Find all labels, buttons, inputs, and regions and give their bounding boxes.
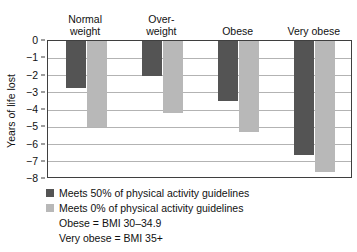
y-axis-tick-mark xyxy=(41,126,45,127)
bar-chart: Normal weightOver- weightObeseVery obese… xyxy=(0,0,357,252)
bar xyxy=(142,41,162,76)
bar xyxy=(163,41,183,113)
gridline xyxy=(48,161,351,162)
y-axis-tick-mark xyxy=(41,91,45,92)
bar xyxy=(87,41,107,127)
chart-legend: Meets 50% of physical activity guideline… xyxy=(46,186,346,246)
bar xyxy=(218,41,238,101)
legend-label: Meets 0% of physical activity guidelines xyxy=(59,202,243,214)
y-axis-tick-mark xyxy=(41,143,45,144)
legend-label: Meets 50% of physical activity guideline… xyxy=(59,187,249,199)
y-axis-tick-label: −7 xyxy=(26,155,38,167)
y-axis-tick-label: −2 xyxy=(26,69,38,81)
y-axis-tick-label: −8 xyxy=(26,172,38,184)
category-label: Very obese xyxy=(264,26,357,38)
chart-note: Very obese = BMI 35+ xyxy=(46,231,346,245)
legend-swatch xyxy=(46,189,54,197)
bar xyxy=(294,41,314,155)
y-axis-tick-mark xyxy=(41,74,45,75)
y-axis-tick-label: −1 xyxy=(26,51,38,63)
y-axis-ticks: Years of life lost 0−1−2−3−4−5−6−7−8 xyxy=(0,40,45,178)
y-axis-tick-mark xyxy=(41,109,45,110)
y-axis-tick-label: −5 xyxy=(26,120,38,132)
y-axis-tick-mark xyxy=(41,57,45,58)
y-axis-tick-mark xyxy=(41,40,45,41)
bar xyxy=(239,41,259,132)
bar xyxy=(315,41,335,172)
legend-item: Meets 50% of physical activity guideline… xyxy=(46,186,346,200)
legend-swatch xyxy=(46,204,54,212)
y-axis-tick-label: 0 xyxy=(32,34,38,46)
legend-item: Meets 0% of physical activity guidelines xyxy=(46,201,346,215)
y-axis-tick-mark xyxy=(41,178,45,179)
y-axis-title: Years of life lost xyxy=(5,56,17,166)
plot-area xyxy=(47,40,352,178)
y-axis-tick-label: −4 xyxy=(26,103,38,115)
y-axis-tick-label: −3 xyxy=(26,86,38,98)
y-axis-tick-label: −6 xyxy=(26,138,38,150)
y-axis-tick-mark xyxy=(41,160,45,161)
category-label-row: Normal weightOver- weightObeseVery obese xyxy=(47,4,352,37)
bar xyxy=(66,41,86,88)
chart-note: Obese = BMI 30–34.9 xyxy=(46,216,346,230)
